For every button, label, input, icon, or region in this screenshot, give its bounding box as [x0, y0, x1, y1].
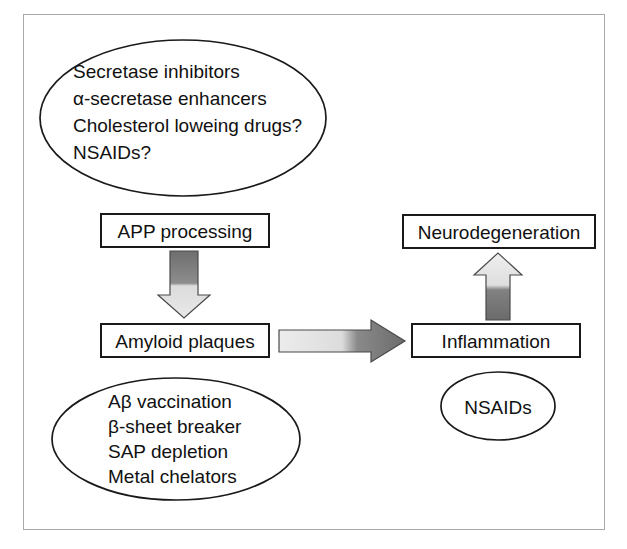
- figure-root: Secretase inhibitors α-secretase enhance…: [0, 0, 627, 549]
- nsaids-ellipse[interactable]: NSAIDs: [441, 372, 555, 440]
- arrow-up-inflammation-to-neurodegeneration-shape: [474, 253, 522, 320]
- amyloid-therapies-line-4: Metal chelators: [108, 466, 237, 487]
- secretase-therapies-line-2: α-secretase enhancers: [73, 88, 267, 109]
- secretase-therapies-line-4: NSAIDs?: [73, 142, 151, 163]
- inflammation-label: Inflammation: [442, 331, 551, 352]
- secretase-therapies-line-1: Secretase inhibitors: [73, 61, 240, 82]
- app-processing-label: APP processing: [118, 221, 253, 242]
- app-processing-box[interactable]: APP processing: [101, 214, 269, 247]
- neurodegeneration-box[interactable]: Neurodegeneration: [403, 215, 595, 248]
- amyloid-therapies-ellipse[interactable]: Aβ vaccination β-sheet breaker SAP deple…: [52, 378, 300, 500]
- arrow-up-inflammation-to-neurodegeneration: [474, 253, 522, 320]
- nsaids-label: NSAIDs: [464, 397, 532, 418]
- amyloid-therapies-line-2: β-sheet breaker: [108, 416, 242, 437]
- arrow-down-app-to-plaques-shape: [158, 251, 210, 318]
- arrow-right-plaques-to-inflammation: [279, 320, 405, 362]
- arrow-down-app-to-plaques: [158, 251, 210, 318]
- secretase-therapies-line-3: Cholesterol loweing drugs?: [73, 115, 302, 136]
- inflammation-box[interactable]: Inflammation: [412, 324, 580, 357]
- amyloid-therapies-line-1: Aβ vaccination: [108, 391, 232, 412]
- amyloid-plaques-box[interactable]: Amyloid plaques: [101, 324, 269, 357]
- arrow-right-plaques-to-inflammation-shape: [279, 320, 405, 362]
- amyloid-plaques-label: Amyloid plaques: [115, 331, 254, 352]
- secretase-therapies-ellipse[interactable]: Secretase inhibitors α-secretase enhance…: [40, 40, 326, 196]
- amyloid-therapies-line-3: SAP depletion: [108, 441, 228, 462]
- neurodegeneration-label: Neurodegeneration: [418, 222, 581, 243]
- diagram-canvas: Secretase inhibitors α-secretase enhance…: [0, 0, 627, 549]
